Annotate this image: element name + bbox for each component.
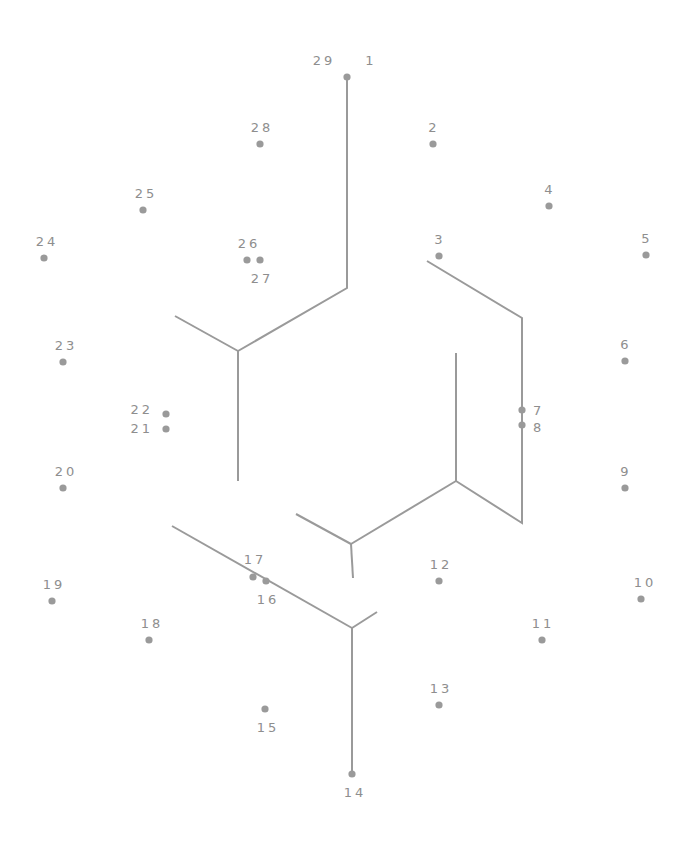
dot-13[interactable] (435, 701, 442, 708)
dot-label-29: 29 (313, 53, 336, 68)
dot-label-8: 8 (533, 420, 544, 435)
dot-27[interactable] (256, 256, 263, 263)
dot-7[interactable] (518, 406, 525, 413)
dot-11[interactable] (538, 636, 545, 643)
dot-16[interactable] (262, 577, 269, 584)
guide-line-right-block-arm (351, 481, 456, 544)
dot-label-26: 26 (238, 236, 261, 251)
dot-to-dot-puzzle: 1234567891011121314151617181920212223242… (0, 0, 687, 843)
dot-label-27: 27 (251, 271, 274, 286)
dot-label-16: 16 (257, 592, 280, 607)
guide-line-bottom-block-arm (352, 612, 377, 628)
dot-24[interactable] (40, 254, 47, 261)
dot-23[interactable] (59, 358, 66, 365)
dot-label-9: 9 (620, 464, 631, 479)
dot-label-22: 22 (130, 402, 153, 417)
dot-10[interactable] (637, 595, 644, 602)
dot-18[interactable] (145, 636, 152, 643)
dot-3[interactable] (435, 252, 442, 259)
dot-5[interactable] (642, 251, 649, 258)
dot-label-20: 20 (55, 464, 78, 479)
dot-label-2: 2 (428, 120, 439, 135)
dot-12[interactable] (435, 577, 442, 584)
guide-line-left-block-top (238, 77, 347, 351)
guide-lines (172, 77, 522, 774)
dot-label-5: 5 (641, 231, 652, 246)
dot-label-28: 28 (251, 120, 274, 135)
dot-label-14: 14 (344, 785, 367, 800)
dot-6[interactable] (621, 357, 628, 364)
dot-4[interactable] (545, 202, 552, 209)
guide-line-bottom-block-diag (172, 526, 352, 628)
dot-1[interactable] (343, 73, 350, 80)
guide-line-mid-block-stem (351, 544, 353, 578)
dot-8[interactable] (518, 421, 525, 428)
dot-label-24: 24 (36, 234, 59, 249)
dot-label-13: 13 (430, 681, 453, 696)
dot-label-10: 10 (634, 575, 657, 590)
dot-17[interactable] (249, 573, 256, 580)
dot-label-6: 6 (620, 337, 631, 352)
dot-label-23: 23 (55, 338, 78, 353)
dot-19[interactable] (48, 597, 55, 604)
dot-15[interactable] (261, 705, 268, 712)
dot-9[interactable] (621, 484, 628, 491)
dot-14[interactable] (348, 770, 355, 777)
dot-2[interactable] (429, 140, 436, 147)
dot-label-19: 19 (43, 577, 66, 592)
dot-21[interactable] (162, 425, 169, 432)
dot-28[interactable] (256, 140, 263, 147)
dot-label-17: 17 (244, 552, 267, 567)
guide-line-right-block-outer (427, 261, 522, 523)
dot-26[interactable] (243, 256, 250, 263)
dot-label-25: 25 (135, 186, 158, 201)
dot-label-7: 7 (533, 403, 544, 418)
guide-line-left-block-arm (175, 316, 238, 351)
dot-22[interactable] (162, 410, 169, 417)
dot-label-3: 3 (434, 232, 445, 247)
dot-label-15: 15 (257, 720, 280, 735)
dot-label-11: 11 (532, 616, 555, 631)
guide-line-mid-block-arm (296, 514, 351, 544)
dot-20[interactable] (59, 484, 66, 491)
dot-label-18: 18 (141, 616, 164, 631)
dot-label-1: 1 (365, 53, 376, 68)
dot-label-12: 12 (430, 557, 453, 572)
dot-25[interactable] (139, 206, 146, 213)
dot-label-21: 21 (130, 421, 153, 436)
dot-label-4: 4 (544, 182, 555, 197)
